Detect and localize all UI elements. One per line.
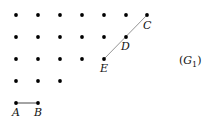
lattice-dot (80, 35, 84, 39)
lattice-dot (58, 57, 62, 61)
lattice-dot (58, 79, 62, 83)
lattice-dot (58, 35, 62, 39)
caption-open: (G (179, 54, 192, 67)
lattice-dots (14, 13, 149, 105)
lattice-dot (102, 57, 106, 61)
label-e: E (100, 63, 108, 74)
lattice-dot (14, 79, 18, 83)
caption-close: ) (197, 54, 201, 67)
lattice-dot (124, 13, 128, 17)
lattice-dot (36, 101, 40, 105)
lattice-dot (102, 35, 106, 39)
lattice-dot (80, 13, 84, 17)
graph-caption: (G1) (179, 55, 201, 69)
lattice-dot (14, 35, 18, 39)
lattice-dot (80, 57, 84, 61)
lattice-dot (145, 13, 149, 17)
lattice-dot (14, 13, 18, 17)
lattice-graphic (0, 0, 207, 122)
lattice-dot (14, 101, 18, 105)
label-d: D (121, 41, 130, 52)
dot-lattice-diagram: A B C D E (G1) (0, 0, 207, 122)
lattice-dot (36, 79, 40, 83)
label-c: C (143, 20, 151, 31)
label-a: A (12, 107, 20, 118)
lattice-dot (102, 13, 106, 17)
label-b: B (34, 107, 42, 118)
lattice-dot (58, 13, 62, 17)
lattice-dot (124, 35, 128, 39)
lattice-dot (36, 57, 40, 61)
lattice-dot (36, 13, 40, 17)
lattice-dot (14, 57, 18, 61)
lattice-dot (36, 35, 40, 39)
